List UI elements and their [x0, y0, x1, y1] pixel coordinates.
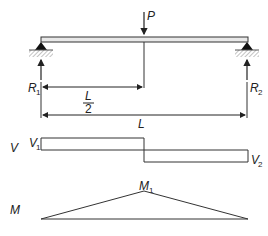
- reaction-right-sub: 2: [258, 88, 263, 97]
- shear-diagram: [41, 138, 248, 162]
- beam-diagram: P R 1 R 2 L 2 L V V 1 V 2 M M 1: [0, 0, 268, 236]
- left-pin-support: [29, 42, 53, 57]
- half-span-denominator: 2: [85, 102, 92, 116]
- shear-left-sub: 1: [36, 143, 41, 152]
- right-pin-support: [235, 42, 259, 57]
- moment-axis-label: M: [10, 203, 20, 217]
- half-span-numerator: L: [85, 89, 92, 103]
- beam: [41, 37, 248, 42]
- load-label: P: [147, 9, 155, 23]
- shear-right-sub: 2: [258, 160, 263, 169]
- span-label: L: [138, 117, 145, 131]
- moment-diagram: [41, 191, 248, 219]
- shear-axis-label: V: [10, 141, 19, 155]
- reaction-left-sub: 1: [36, 88, 41, 97]
